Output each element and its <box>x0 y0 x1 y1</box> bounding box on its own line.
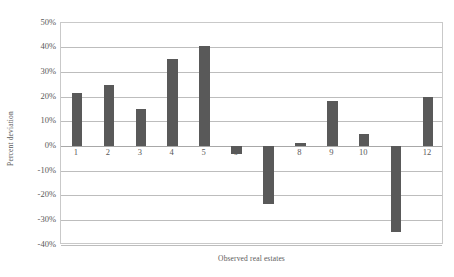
bars-series <box>61 23 442 243</box>
y-axis-tick-labels: 50%40%30%20%10%0%-10%-20%-30%-40% <box>16 0 56 277</box>
bar <box>136 109 147 147</box>
y-tick-label: 20% <box>20 92 56 101</box>
plot-area <box>60 22 443 244</box>
x-tick-label: 4 <box>156 148 188 157</box>
x-tick-label: 6 <box>220 148 252 157</box>
x-tick-label: 8 <box>283 148 315 157</box>
bar <box>104 85 115 146</box>
y-tick-label: -40% <box>20 240 56 249</box>
bar <box>72 93 83 147</box>
x-tick-label: 10 <box>347 148 379 157</box>
x-tick-label: 12 <box>411 148 443 157</box>
y-tick-label: 0% <box>20 141 56 150</box>
y-tick-label: -10% <box>20 166 56 175</box>
y-tick-label: -20% <box>20 190 56 199</box>
bar-chart: Percent deviation 50%40%30%20%10%0%-10%-… <box>0 0 454 277</box>
y-tick-label: 40% <box>20 42 56 51</box>
y-tick-label: 10% <box>20 116 56 125</box>
x-tick-label: 1 <box>60 148 92 157</box>
bar <box>167 59 178 146</box>
x-tick-label: 3 <box>124 148 156 157</box>
y-tick-label: -30% <box>20 215 56 224</box>
bar <box>327 101 338 146</box>
gridline <box>61 245 442 246</box>
x-tick-label: 5 <box>188 148 220 157</box>
x-axis-title: Observed real estates <box>60 254 443 263</box>
bar <box>359 134 370 147</box>
y-tick-label: 30% <box>20 67 56 76</box>
bar <box>199 46 210 146</box>
y-tick-label: 50% <box>20 18 56 27</box>
x-tick-label: 9 <box>315 148 347 157</box>
x-axis-tick-labels: 123456789101112 <box>60 146 443 164</box>
x-tick-label: 2 <box>92 148 124 157</box>
bar <box>423 97 434 147</box>
